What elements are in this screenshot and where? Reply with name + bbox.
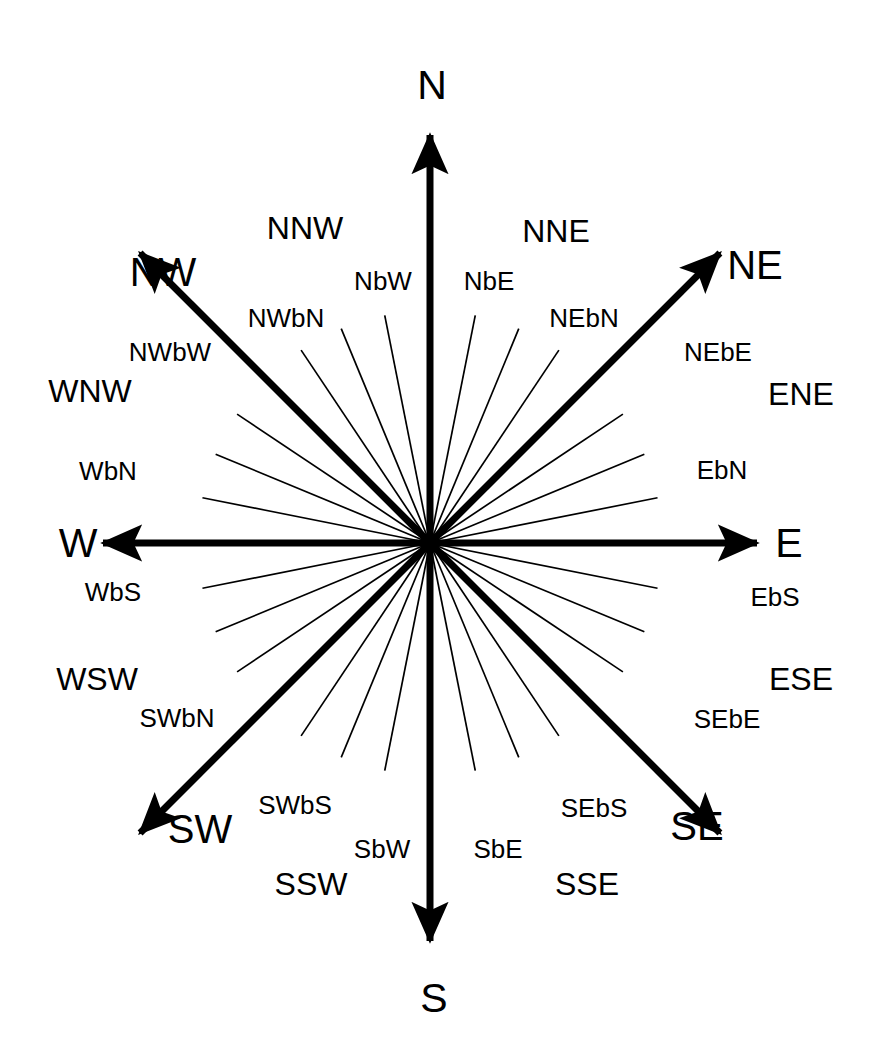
compass-label-swbn: SWbN <box>139 705 214 731</box>
compass-label-ese: ESE <box>769 663 833 695</box>
compass-label-nne: NNE <box>522 215 590 247</box>
compass-label-w: W <box>59 523 98 564</box>
compass-label-n: N <box>417 65 447 106</box>
compass-label-nw: NW <box>130 252 197 292</box>
compass-label-ebs: EbS <box>750 584 799 610</box>
compass-label-wbn: WbN <box>79 458 137 484</box>
compass-label-sw: SW <box>168 809 232 849</box>
compass-label-swbs: SWbS <box>258 792 332 818</box>
compass-label-ssw: SSW <box>275 868 348 900</box>
compass-ray-nw <box>140 253 430 543</box>
compass-label-nbe: NbE <box>464 268 515 294</box>
compass-label-sebs: SEbS <box>561 795 628 821</box>
compass-label-sbe: SbE <box>473 836 522 862</box>
compass-rose-svg <box>0 0 886 1057</box>
compass-label-nebe: NEbE <box>684 339 752 365</box>
compass-label-sbw: SbW <box>354 836 410 862</box>
compass-label-wsw: WSW <box>56 663 138 695</box>
compass-label-wnw: WNW <box>48 375 132 407</box>
compass-ray-ne <box>430 253 720 543</box>
compass-label-ebn: EbN <box>697 457 748 483</box>
compass-label-ene: ENE <box>768 378 834 410</box>
compass-rose-figure: NNbENNENEbNNENEbEENEEbNEEbSESESEbESESEbS… <box>0 0 886 1057</box>
compass-ray-se <box>430 543 720 833</box>
compass-label-ne: NE <box>727 245 783 285</box>
compass-label-se: SE <box>670 806 723 846</box>
compass-label-s: S <box>420 978 447 1019</box>
compass-label-nbw: NbW <box>354 268 412 294</box>
compass-label-nwbn: NWbN <box>248 305 325 331</box>
compass-label-nebn: NEbN <box>549 305 618 331</box>
compass-label-sse: SSE <box>555 868 619 900</box>
compass-label-e: E <box>775 523 802 564</box>
compass-label-nnw: NNW <box>267 212 343 244</box>
compass-label-sebe: SEbE <box>694 706 761 732</box>
compass-label-wbs: WbS <box>85 579 141 605</box>
compass-label-nwbw: NWbW <box>129 339 211 365</box>
